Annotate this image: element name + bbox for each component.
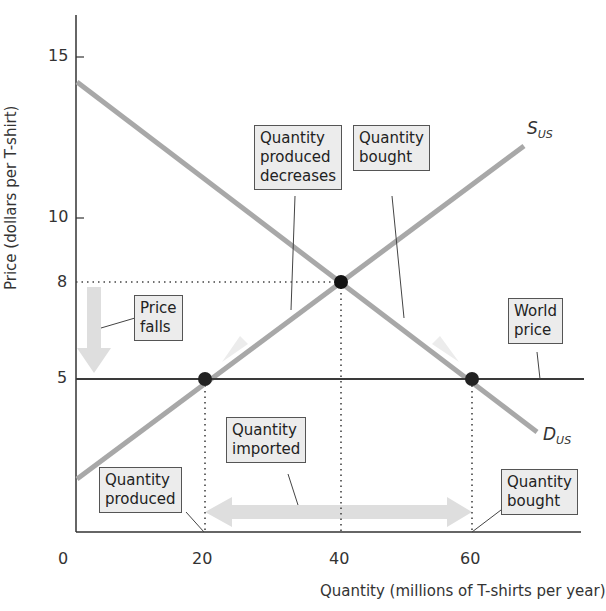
y-tick-label-8: 8	[57, 272, 67, 291]
quantity-produced-label: Quantityproduced	[99, 467, 182, 513]
quantity-bought-increases-label: Quantitybought	[353, 125, 430, 171]
supply-curve-label: SUS	[527, 118, 553, 141]
x-tick-label-0: 0	[58, 549, 68, 568]
demand-curve-label: DUS	[543, 424, 571, 447]
quantity-bought-label: Quantitybought	[501, 469, 578, 515]
y-axis-label: Price (dollars per T-shirt)	[2, 106, 20, 290]
price-falls-label: Pricefalls	[134, 295, 183, 341]
x-tick-label-40: 40	[329, 549, 349, 568]
quantity-imported-label: Quantityimported	[226, 417, 306, 463]
x-tick-label-20: 20	[192, 549, 212, 568]
x-axis-label: Quantity (millions of T-shirts per year)	[320, 582, 606, 600]
x-tick-label-60: 60	[460, 549, 480, 568]
equilibrium-point	[334, 275, 348, 289]
y-tick-label-10: 10	[48, 207, 68, 226]
price-falls-arrow	[77, 287, 111, 373]
quantity-produced-point	[198, 372, 212, 386]
quantity-bought-point	[465, 372, 479, 386]
y-tick-label-15: 15	[48, 46, 68, 65]
quantity-produced-decreases-label: Quantityproduceddecreases	[254, 125, 342, 190]
world-price-label: Worldprice	[508, 298, 563, 344]
quantity-imported-arrow	[205, 497, 472, 527]
y-tick-label-5: 5	[57, 368, 67, 387]
